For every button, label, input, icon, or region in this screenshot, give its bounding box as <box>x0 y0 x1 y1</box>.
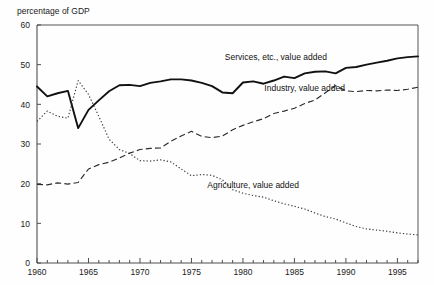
x-tick-label: 1970 <box>131 267 150 277</box>
x-tick-label: 1995 <box>388 267 407 277</box>
series-label: Services, etc., value added <box>225 52 327 62</box>
y-axis-ticks: 0102030405060 <box>21 20 41 268</box>
y-axis-title: percentage of GDP <box>17 6 90 16</box>
series-label: Agriculture, value added <box>207 180 299 190</box>
series-line-dashed <box>37 86 418 185</box>
x-tick-label: 1980 <box>233 267 252 277</box>
y-tick-label: 50 <box>21 60 31 70</box>
x-tick-label: 1990 <box>336 267 355 277</box>
y-tick-label: 40 <box>21 100 31 110</box>
data-series-group <box>37 56 418 235</box>
series-annotation-labels: Services, etc., value addedIndustry, val… <box>207 52 345 190</box>
x-tick-label: 1975 <box>182 267 201 277</box>
x-tick-label: 1985 <box>285 267 304 277</box>
x-axis-ticks: 19601965197019751980198519901995 <box>28 258 408 277</box>
y-tick-label: 20 <box>21 179 31 189</box>
y-tick-label: 30 <box>21 139 31 149</box>
series-line-solid <box>37 56 418 128</box>
chart-figure: percentage of GDP 0102030405060 19601965… <box>0 0 434 285</box>
y-tick-label: 10 <box>21 219 31 229</box>
line-chart-canvas: percentage of GDP 0102030405060 19601965… <box>0 0 434 285</box>
y-tick-label: 60 <box>21 20 31 30</box>
x-tick-label: 1965 <box>79 267 98 277</box>
x-tick-label: 1960 <box>28 267 47 277</box>
series-label: Industry, value added <box>264 83 345 93</box>
